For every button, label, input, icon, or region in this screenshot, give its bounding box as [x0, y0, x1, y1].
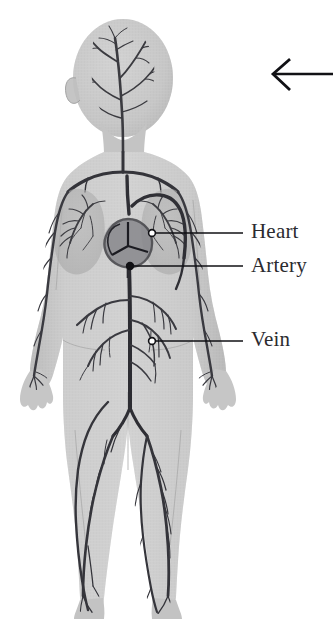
circulatory-system-illustration [0, 0, 333, 621]
aorta [129, 266, 130, 408]
label-vein: Vein [251, 329, 290, 350]
label-heart: Heart [251, 221, 299, 242]
label-artery: Artery [251, 255, 307, 276]
diagram-canvas [0, 0, 333, 621]
left-arrow-icon [273, 60, 333, 89]
